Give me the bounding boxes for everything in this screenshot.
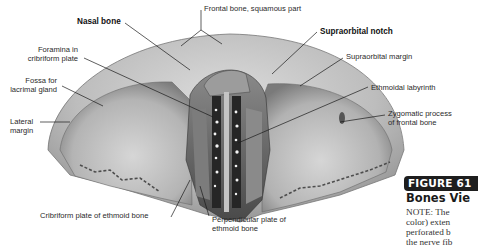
label-foramina-line2: cribriform plate — [18, 55, 78, 64]
label-perpendicular-line2: ethmoid bone — [212, 225, 286, 234]
label-frontal-bone: Frontal bone, squamous part — [204, 5, 301, 14]
label-lateral-line2: margin — [10, 127, 33, 136]
label-foramina: Foramina in cribriform plate — [18, 46, 78, 63]
figure-number-badge: FIGURE 61 — [404, 176, 478, 191]
label-fossa-lacrimal: Fossa for lacrimal gland — [0, 77, 57, 94]
note-line: color) exten — [406, 217, 482, 227]
label-fossa-line2: lacrimal gland — [0, 86, 57, 95]
figure-note: NOTE: The color) exten perforated b the … — [406, 207, 482, 247]
label-cribriform-plate: Cribriform plate of ethmoid bone — [40, 212, 148, 221]
figure-title: Bones Vie — [406, 191, 470, 205]
label-nasal-bone: Nasal bone — [77, 18, 121, 27]
note-line: NOTE: The — [406, 207, 482, 217]
label-zygomatic-process: Zygomatic process of frontal bone — [388, 110, 452, 127]
note-line: the nerve fib — [406, 237, 482, 247]
label-perpendicular-plate: Perpendicular plate of ethmoid bone — [212, 216, 286, 233]
label-lateral-margin: Lateral margin — [10, 118, 33, 135]
note-line: perforated b — [406, 227, 482, 237]
label-supraorbital-margin: Supraorbital margin — [346, 53, 412, 62]
label-supraorbital-notch: Supraorbital notch — [320, 28, 393, 37]
label-ethmoidal-labyrinth: Ethmoidal labyrinth — [371, 84, 436, 93]
label-zygomatic-line2: of frontal bone — [388, 119, 452, 128]
